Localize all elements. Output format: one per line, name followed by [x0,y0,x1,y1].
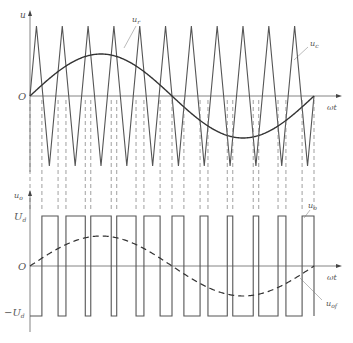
lower-panel: uo Ud O −Ud ωt uo uof [4,190,342,332]
fundamental-label: uof [326,299,339,310]
lower-x-axis-arrow-icon [336,264,342,268]
neg-level-label-main: −U [4,307,21,318]
fundamental-leader-line [300,278,322,300]
reference-label-sub: r [137,18,141,25]
reference-leader-line [124,26,136,48]
reference-label: ur [132,15,141,25]
output-label: uo [308,201,317,211]
upper-y-axis-arrow-icon [28,10,32,16]
output-leader-line [304,210,310,218]
upper-panel: u O ωt ur uc [18,10,342,172]
lower-y-axis-label: uo [14,191,23,201]
lower-y-axis-label-sub: o [19,194,23,201]
upper-y-axis-label: u [20,10,26,20]
upper-x-axis-arrow-icon [336,94,342,98]
carrier-label: uc [310,39,319,49]
pos-level-label: Ud [14,211,26,223]
lower-x-axis-label: ωt [327,273,338,282]
pos-level-label-sub: d [22,216,26,223]
upper-origin-label: O [18,91,26,102]
fundamental-label-sub: of [331,302,339,310]
projection-lines-group [30,100,314,212]
neg-level-label-sub: d [21,312,25,319]
lower-y-axis-arrow-icon [28,190,32,196]
spwm-diagram: u O ωt ur uc uo Ud O −Ud ωt [0,0,353,343]
lower-origin-label: O [18,261,26,272]
neg-level-label: −Ud [4,307,25,319]
carrier-leader-line [294,47,308,60]
output-label-sub: o [313,204,317,211]
carrier-label-sub: c [315,42,319,49]
upper-x-axis-label: ωt [327,103,338,112]
